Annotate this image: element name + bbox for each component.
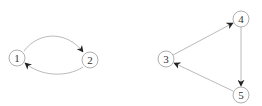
edge-1-to-2 — [24, 36, 83, 52]
left-graph: 1 2 — [9, 36, 98, 74]
graph-diagram: 1 2 3 4 5 — [0, 0, 262, 106]
node-5: 5 — [233, 87, 249, 103]
node-1: 1 — [9, 50, 25, 66]
node-2-label: 2 — [87, 54, 93, 66]
right-graph: 3 4 5 — [158, 11, 249, 103]
edge-5-to-3 — [174, 63, 233, 91]
edge-3-to-4 — [173, 23, 233, 55]
edge-2-to-1 — [25, 63, 83, 74]
node-4-label: 4 — [238, 13, 244, 25]
node-1-label: 1 — [14, 52, 20, 64]
node-4: 4 — [233, 11, 249, 27]
node-2: 2 — [82, 52, 98, 68]
node-5-label: 5 — [238, 89, 244, 101]
node-3-label: 3 — [163, 53, 169, 65]
node-3: 3 — [158, 51, 174, 67]
